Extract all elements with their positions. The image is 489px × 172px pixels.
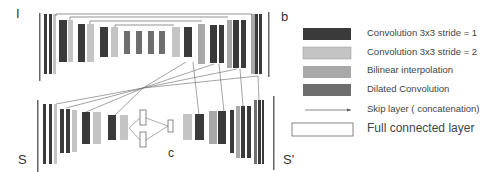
label-output-top: b [281,9,288,24]
cross-connections [56,62,259,117]
label-center: c [168,146,174,160]
label-input-bottom: S [18,152,27,167]
top-network [39,12,270,81]
label-output-bottom: S' [283,152,294,167]
label-input-top: I [16,6,20,21]
legend-skip: Skip layer ( concatenation) [367,103,479,114]
legend-graphics [292,28,353,136]
legend-fc: Full connected layer [367,121,474,135]
legend-conv-stride2: Convolution 3x3 stride = 2 [367,46,477,57]
bottom-network [37,96,275,172]
legend-bilinear: Bilinear interpolation [367,64,453,75]
legend-dilated: Dilated Convolution [367,83,449,94]
legend-conv-stride1: Convolution 3x3 stride = 1 [367,27,477,38]
